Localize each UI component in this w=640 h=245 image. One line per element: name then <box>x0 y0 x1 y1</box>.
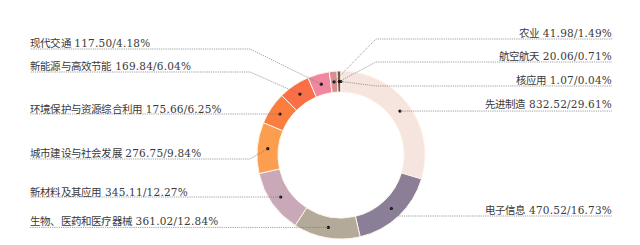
slice-label: 环境保护与资源综合利用 175.66/6.25% <box>30 101 222 116</box>
donut-slice <box>257 123 283 174</box>
slice-label: 城市建设与社会发展 276.75/9.84% <box>30 145 201 160</box>
slice-label: 电子信息 470.52/16.73% <box>485 202 612 217</box>
donut-slice <box>259 169 307 225</box>
donut-slice <box>295 208 360 239</box>
slice-label: 新能源与高效节能 169.84/6.04% <box>30 58 191 73</box>
slice-label: 新材料及其应用 345.11/12.27% <box>30 184 188 199</box>
donut-slices <box>257 71 425 239</box>
slice-label: 现代交通 117.50/4.18% <box>30 35 150 50</box>
donut-slice <box>341 71 425 179</box>
leader-dot <box>266 147 269 150</box>
slice-label: 生物、医药和医疗器械 361.02/12.84% <box>30 213 218 228</box>
slice-label: 核应用 1.07/0.04% <box>516 72 612 87</box>
leader-line <box>30 72 300 94</box>
donut-slice <box>355 173 421 237</box>
slice-label: 航空航天 20.06/0.71% <box>499 48 613 63</box>
slice-label: 农业 41.98/1.49% <box>519 25 612 40</box>
slice-label: 先进制造 832.52/29.61% <box>485 96 612 111</box>
